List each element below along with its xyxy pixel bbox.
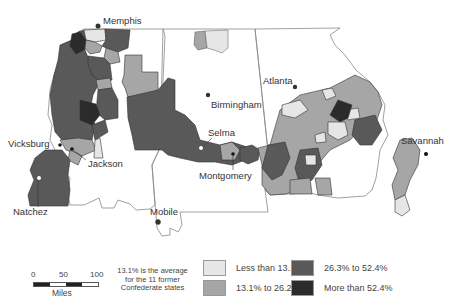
region-georgia <box>258 75 420 216</box>
legend-label: 13.1% to 26.2% <box>236 283 300 293</box>
scale-tick-50: 50 <box>59 270 68 279</box>
atlanta-marker <box>293 85 297 89</box>
vicksburg-marker <box>58 143 62 147</box>
legend-label: 26.3% to 52.4% <box>324 263 388 273</box>
legend-item-26-to-52: 26.3% to 52.4% <box>291 260 388 276</box>
legend-swatch <box>203 260 226 276</box>
legend-swatch <box>203 280 226 296</box>
city-label-vicksburg: Vicksburg <box>8 139 50 149</box>
scale-unit: Miles <box>52 288 72 298</box>
region-ms-delta <box>28 29 130 206</box>
legend-swatch <box>291 260 314 276</box>
city-label-jackson: Jackson <box>88 159 123 169</box>
scale-bar: 0 50 100 Miles <box>30 270 105 300</box>
selma-marker <box>199 146 204 151</box>
legend-item-more-than-52: More than 52.4% <box>291 280 393 296</box>
birmingham-marker <box>206 93 210 97</box>
legend-label: More than 52.4% <box>324 283 393 293</box>
city-label-birmingham: Birmingham <box>211 100 262 110</box>
city-label-montgomery: Montgomery <box>199 171 252 181</box>
average-note: 13.1% is the average for the 11 former C… <box>115 267 190 293</box>
legend-item-less-than-13: Less than 13.1% <box>203 260 303 276</box>
city-label-mobile: Mobile <box>150 207 178 217</box>
natchez-marker <box>37 176 42 181</box>
montgomery-marker <box>231 152 235 156</box>
city-label-memphis: Memphis <box>103 16 142 26</box>
scale-bar-line <box>33 282 99 287</box>
legend-swatch <box>291 280 314 296</box>
legend: Less than 13.1% 13.1% to 26.2% 26.3% to … <box>203 260 448 300</box>
city-label-atlanta: Atlanta <box>263 76 293 86</box>
region-al-north <box>194 30 228 53</box>
scale-tick-100: 100 <box>90 270 103 279</box>
savannah-marker <box>424 152 428 156</box>
legend-item-13-to-26: 13.1% to 26.2% <box>203 280 300 296</box>
city-label-natchez: Natchez <box>13 207 48 217</box>
city-label-selma: Selma <box>208 128 235 138</box>
mobile-marker <box>156 220 161 225</box>
region-al-black-belt <box>122 55 260 165</box>
scale-tick-0: 0 <box>31 270 35 279</box>
choropleth-map <box>0 0 450 301</box>
memphis-marker <box>96 24 101 29</box>
city-label-savannah: Savannah <box>401 136 444 146</box>
